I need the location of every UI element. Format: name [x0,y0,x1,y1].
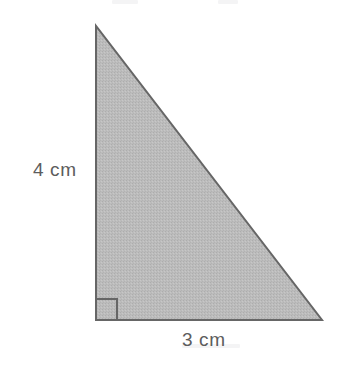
triangle-shape [96,26,322,320]
figure-container: 4 cm 3 cm [0,0,340,374]
dimension-label-horizontal-leg: 3 cm [182,330,226,349]
dimension-label-vertical-leg: 4 cm [33,160,77,179]
triangle-figure [0,0,340,374]
